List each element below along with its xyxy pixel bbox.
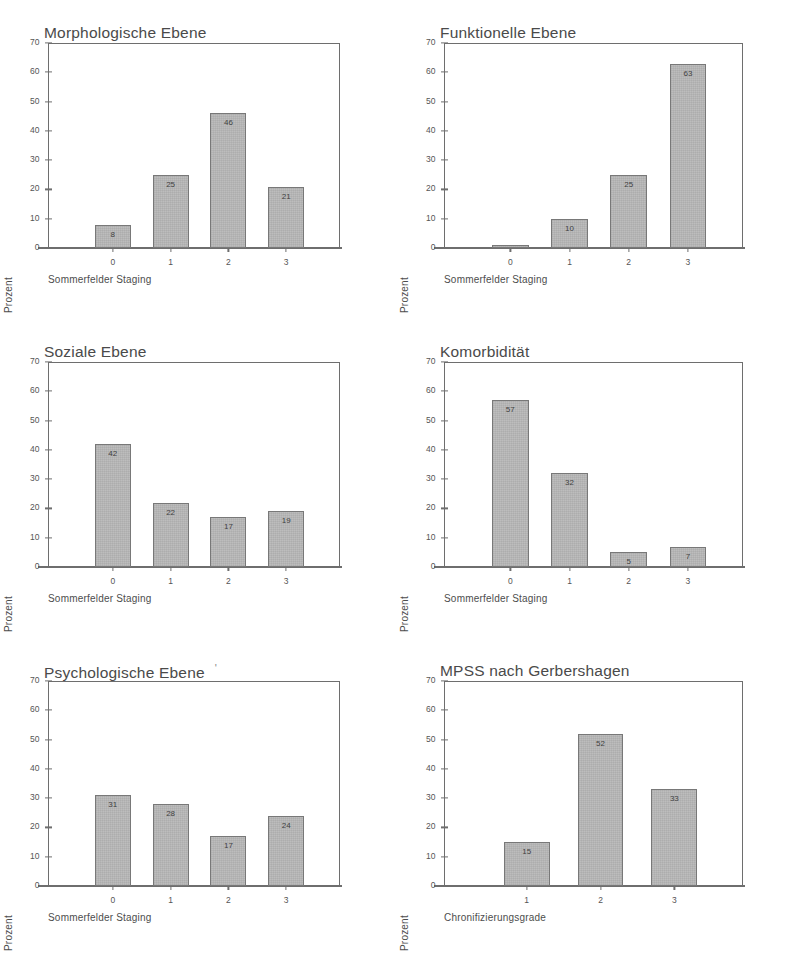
x-tick (228, 567, 229, 571)
y-tick-label: 70 (426, 357, 435, 366)
bar-value-label: 28 (154, 810, 188, 818)
bar-slot: 21 (268, 43, 304, 248)
chart-panel: Funktionelle EbeneProzent010203040506070… (396, 0, 792, 319)
x-tick-label: 1 (168, 577, 173, 586)
y-tick-label: 40 (426, 764, 435, 773)
x-tick (112, 248, 113, 252)
x-tick-label: 0 (508, 577, 513, 586)
bar: 63 (670, 64, 707, 249)
x-tick (286, 886, 287, 890)
bar-slot: 22 (153, 362, 189, 567)
x-tick-label: 3 (672, 896, 677, 905)
y-tick-label: 70 (30, 676, 39, 685)
x-tick (170, 567, 171, 571)
x-tick-label: 0 (110, 258, 115, 267)
chart-panel: MPSS nach GerbershagenProzent01020304050… (396, 638, 792, 957)
y-tick-label: 50 (426, 97, 435, 106)
y-tick-label: 0 (431, 243, 436, 252)
x-axis-label: Sommerfelder Staging (444, 593, 548, 604)
bar: 52 (578, 734, 624, 886)
x-tick-label: 2 (226, 896, 231, 905)
chart-title: Morphologische Ebene (44, 24, 207, 42)
bar-slot: 24 (268, 681, 304, 886)
plot-area: 0102030405060700101252633 (444, 43, 743, 248)
x-tick-label: 1 (168, 258, 173, 267)
chart-panel: Morphologische EbeneProzent0102030405060… (0, 0, 396, 319)
x-tick-label: 0 (110, 577, 115, 586)
bar-slot: 31 (95, 681, 131, 886)
y-tick-label: 0 (431, 881, 436, 890)
bar: 22 (153, 503, 189, 567)
bar-value-label: 24 (269, 822, 303, 830)
bar-slot: 5 (610, 362, 647, 567)
plot-area: 010203040506070310281172243 (48, 681, 340, 886)
bar: 42 (95, 444, 131, 567)
y-tick-label: 20 (30, 504, 39, 513)
y-tick-label: 60 (426, 705, 435, 714)
y-tick-label: 10 (30, 214, 39, 223)
x-tick (628, 567, 629, 571)
bar-series: 5703215273 (444, 362, 743, 567)
bar-slot: 57 (492, 362, 529, 567)
bar-value-label: 10 (552, 225, 587, 233)
bar-slot: 28 (153, 681, 189, 886)
x-tick-label: 0 (508, 258, 513, 267)
x-tick (228, 248, 229, 252)
bar-series: 310281172243 (48, 681, 340, 886)
x-axis-label: Chronifizierungsgrade (444, 912, 546, 923)
y-axis-label: Prozent (399, 915, 410, 951)
x-tick (526, 886, 527, 890)
y-tick-label: 20 (30, 185, 39, 194)
bar-value-label: 17 (211, 523, 245, 531)
x-tick-label: 2 (626, 577, 631, 586)
y-tick-label: 70 (426, 676, 435, 685)
y-tick-label: 30 (30, 793, 39, 802)
bar-value-label: 57 (493, 406, 528, 414)
y-tick-label: 20 (30, 823, 39, 832)
bar-value-label: 25 (154, 181, 188, 189)
bar: 33 (651, 789, 697, 886)
bar: 25 (610, 175, 647, 248)
bar: 24 (268, 816, 304, 886)
y-tick-label: 30 (426, 155, 435, 164)
y-tick-label: 10 (426, 852, 435, 861)
chart-title: Funktionelle Ebene (440, 24, 576, 42)
x-tick (510, 248, 511, 252)
x-tick (112, 886, 113, 890)
bar: 8 (95, 225, 131, 248)
bar-slot: 33 (651, 681, 697, 886)
bar: 57 (492, 400, 529, 567)
x-tick-label: 0 (110, 896, 115, 905)
chart-panel: KomorbiditätProzent010203040506070570321… (396, 319, 792, 638)
bar-slot: 25 (610, 43, 647, 248)
x-tick-label: 1 (524, 896, 529, 905)
y-tick-label: 40 (426, 126, 435, 134)
x-tick (600, 886, 601, 890)
bar: 17 (210, 517, 246, 567)
bar-value-label: 25 (611, 181, 646, 189)
bar-slot: 32 (551, 362, 588, 567)
x-tick-label: 3 (686, 577, 691, 586)
x-tick-label: 3 (284, 896, 289, 905)
plot-area: 010203040506070420221172193 (48, 362, 340, 567)
y-tick-label: 50 (30, 97, 39, 106)
x-tick (674, 886, 675, 890)
bar-slot: 25 (153, 43, 189, 248)
bar-slot: 17 (210, 362, 246, 567)
bar-slot: 52 (578, 681, 624, 886)
plot-area: 010203040506070151522333 (444, 681, 743, 886)
y-tick-label: 50 (30, 416, 39, 425)
x-tick (112, 567, 113, 571)
bar: 15 (504, 842, 550, 886)
chart-panel: Soziale EbeneProzent01020304050607042022… (0, 319, 396, 638)
chart-title: Komorbidität (440, 343, 529, 361)
x-tick-label: 1 (567, 577, 572, 586)
bar: 10 (551, 219, 588, 248)
x-axis-label: Sommerfelder Staging (48, 912, 152, 923)
x-tick-label: 3 (686, 258, 691, 267)
y-tick-label: 10 (30, 852, 39, 861)
bar-slot: 7 (670, 362, 707, 567)
y-tick-label: 10 (426, 533, 435, 542)
bar-value-label: 17 (211, 842, 245, 850)
bar-value-label: 21 (269, 193, 303, 201)
